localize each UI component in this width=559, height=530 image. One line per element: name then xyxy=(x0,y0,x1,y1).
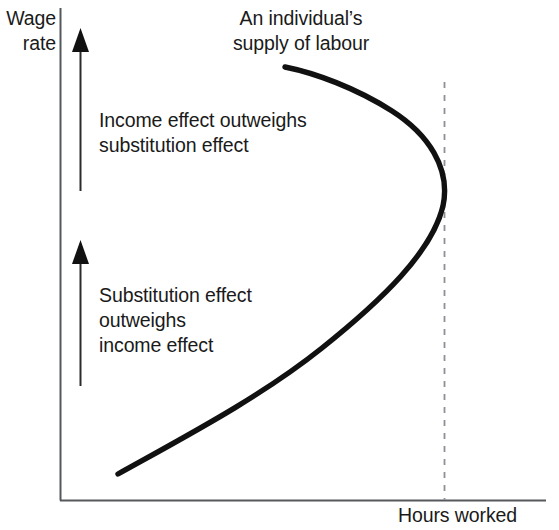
y-axis-label-line2: rate xyxy=(23,32,56,54)
income-effect-annotation-line2: substitution effect xyxy=(99,134,249,156)
income-effect-annotation: Income effect outweighssubstitution effe… xyxy=(99,108,307,158)
substitution-effect-annotation-line3: income effect xyxy=(99,334,213,356)
substitution-effect-annotation-line1: Substitution effect xyxy=(99,284,252,306)
labour-supply-curve-figure xyxy=(0,0,559,530)
y-axis-label: Wagerate xyxy=(0,6,56,56)
income-effect-annotation-line1: Income effect outweighs xyxy=(99,109,307,131)
x-axis-label: Hours worked xyxy=(398,503,517,528)
substitution-effect-annotation-line2: outweighs xyxy=(99,309,186,331)
substitution-effect-annotation: Substitution effectoutweighsincome effec… xyxy=(99,283,252,358)
curve-label-line2: supply of labour xyxy=(233,32,369,54)
figure-background xyxy=(0,0,559,530)
curve-label: An individual’ssupply of labour xyxy=(208,6,394,56)
y-axis-label-line1: Wage xyxy=(6,7,56,29)
curve-label-line1: An individual’s xyxy=(240,7,363,29)
